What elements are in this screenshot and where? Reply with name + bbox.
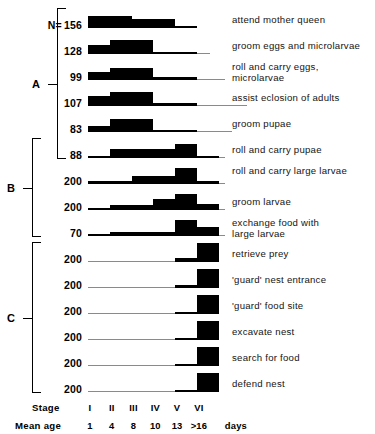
bar-step	[110, 205, 154, 210]
sample-size-value: 128	[64, 45, 82, 57]
task-row: 200retrieve prey	[0, 240, 375, 266]
mean-age-tick-label: >16	[186, 420, 212, 431]
sample-size-label: 200	[64, 279, 82, 291]
bar-step	[110, 40, 154, 54]
sample-size-prefix: N=	[48, 19, 62, 31]
task-row: 200excavate nest	[0, 318, 375, 344]
bar-plot-cell	[88, 318, 233, 344]
bar-step	[197, 243, 219, 262]
sample-size-label: 107	[64, 97, 82, 109]
bar-step	[197, 321, 219, 340]
task-row: 70exchange food with large larvae	[0, 214, 375, 240]
sample-size-value: 200	[64, 305, 82, 317]
task-label: assist eclosion of adults	[232, 93, 340, 104]
bar-plot-cell	[88, 110, 233, 136]
bar-plot-cell	[88, 292, 233, 318]
task-row: 200'guard' food site	[0, 292, 375, 318]
bar-plot-cell	[88, 136, 233, 162]
bar-plot-cell	[88, 162, 233, 188]
stage-tick-label: VI	[188, 402, 210, 413]
sample-size-label: 200	[64, 175, 82, 187]
bar-step	[197, 347, 219, 366]
task-label: excavate nest	[232, 327, 294, 338]
task-label: exchange food with large larvae	[232, 218, 319, 239]
sample-size-label: 200	[64, 201, 82, 213]
bar-step	[153, 52, 197, 54]
sample-size-value: 200	[64, 383, 82, 395]
stage-axis-title: Stage	[32, 402, 60, 413]
task-row: 200search for food	[0, 344, 375, 370]
sample-size-value: 156	[64, 19, 82, 31]
bar-step	[88, 126, 110, 132]
task-row: 99roll and carry eggs, microlarvae	[0, 58, 375, 84]
sample-size-value: 200	[64, 279, 82, 291]
sample-size-value: 200	[64, 201, 82, 213]
task-label: groom larvae	[232, 197, 291, 208]
bar-step	[88, 45, 110, 55]
bar-plot-cell	[88, 32, 233, 58]
bar-plot-cell	[88, 344, 233, 370]
bar-plot-cell	[88, 58, 233, 84]
bar-step	[88, 234, 110, 236]
bar-step	[110, 92, 154, 106]
sample-size-label: 128	[64, 45, 82, 57]
sample-size-label: 70	[70, 227, 82, 239]
task-row: 200defend nest	[0, 370, 375, 396]
task-row: 128groom eggs and microlarvae	[0, 32, 375, 58]
bar-step	[110, 68, 154, 80]
bar-step	[175, 26, 197, 28]
bar-plot-cell	[88, 188, 233, 214]
bar-plot-cell	[88, 266, 233, 292]
bar-step	[175, 144, 197, 158]
bar-step	[153, 199, 175, 210]
sample-size-value: 88	[70, 149, 82, 161]
task-row: 200roll and carry large larvae	[0, 162, 375, 188]
task-row: N=156attend mother queen	[0, 6, 375, 32]
task-label: defend nest	[232, 379, 285, 390]
sample-size-value: 99	[70, 71, 82, 83]
bar-step	[110, 149, 175, 158]
mean-age-axis-title: Mean age	[15, 420, 61, 431]
task-label: roll and carry pupae	[232, 145, 322, 156]
bar-step	[88, 208, 110, 210]
bar-step	[197, 227, 219, 237]
bar-step	[153, 77, 197, 80]
sample-size-label: 99	[70, 71, 82, 83]
sample-size-label: 83	[70, 123, 82, 135]
bar-step	[88, 156, 110, 158]
sample-size-label: N=156	[48, 19, 82, 31]
sample-size-value: 200	[64, 175, 82, 187]
task-row: 88roll and carry pupae	[0, 136, 375, 162]
bar-step	[197, 373, 219, 392]
stage-tick-label: II	[101, 402, 123, 413]
stage-tick-label: V	[166, 402, 188, 413]
bar-step	[153, 130, 197, 132]
bar-step	[88, 181, 132, 184]
sample-size-value: 70	[70, 227, 82, 239]
bar-step	[153, 103, 197, 106]
bar-plot-cell	[88, 240, 233, 266]
bar-step	[197, 181, 219, 184]
task-label: groom eggs and microlarvae	[232, 41, 360, 52]
bar-step	[110, 232, 175, 236]
sample-size-label: 200	[64, 305, 82, 317]
stage-tick-label: I	[79, 402, 101, 413]
sample-size-value: 200	[64, 331, 82, 343]
bar-plot-cell	[88, 84, 233, 110]
sample-size-value: 200	[64, 357, 82, 369]
bar-step	[175, 338, 197, 340]
bar-step	[88, 96, 110, 106]
bar-step	[197, 156, 219, 158]
bar-step	[175, 258, 197, 262]
stage-tick-label: IV	[144, 402, 166, 413]
bar-step	[132, 176, 176, 184]
task-label: search for food	[232, 353, 300, 364]
bar-step	[175, 194, 197, 210]
task-row: 200groom larvae	[0, 188, 375, 214]
bar-plot-cell	[88, 370, 233, 396]
bar-step	[175, 312, 197, 314]
age-polyethism-chart: ABC N=156attend mother queen128groom egg…	[0, 0, 375, 434]
task-row: 107assist eclosion of adults	[0, 84, 375, 110]
bar-plot-cell	[88, 214, 233, 240]
sample-size-value: 83	[70, 123, 82, 135]
